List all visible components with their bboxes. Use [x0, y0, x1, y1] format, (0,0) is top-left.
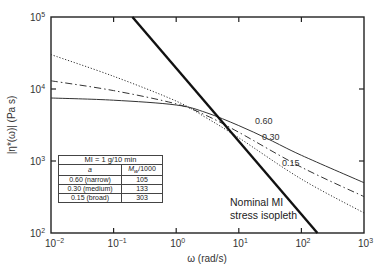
chart: 10−210−1100101102103102103104105 0.60 0.… — [0, 0, 386, 276]
curve-label-0.60: 0.60 — [255, 116, 273, 126]
legend-row: 0.30 (medium) 133 — [59, 185, 163, 194]
legend-cell: 105 — [122, 176, 163, 185]
y-axis-label: |η*(ω)| (Pa s) — [6, 96, 17, 155]
legend-row: 0.15 (broad) 303 — [59, 194, 163, 203]
isopleth-annotation-line1: Nominal MI — [230, 196, 283, 208]
legend-row: 0.60 (narrow) 105 — [59, 176, 163, 185]
x-axis-label: ω (rad/s) — [187, 253, 226, 264]
x-tick-label: 10−2 — [45, 237, 64, 249]
legend-cell: 0.15 (broad) — [59, 194, 122, 203]
isopleth-annotation-line2: stress isopleth — [230, 209, 297, 221]
legend-cell: 303 — [122, 194, 163, 203]
legend-title: MI = 1 g/10 min — [59, 156, 163, 165]
curve-label-0.30: 0.30 — [262, 132, 280, 142]
legend-cell: 0.60 (narrow) — [59, 176, 122, 185]
legend-header-mw: Mw/1000 — [122, 165, 163, 176]
y-tick-label: 102 — [30, 227, 45, 239]
y-tick-label: 103 — [30, 155, 45, 167]
x-tick-label: 10−1 — [108, 237, 127, 249]
x-tick-label: 101 — [233, 237, 248, 249]
y-tick-label: 105 — [30, 11, 45, 23]
legend-cell: 133 — [122, 185, 163, 194]
axis-tick-labels: 10−210−1100101102103102103104105 — [30, 11, 373, 249]
curve-label-0.15: 0.15 — [282, 158, 300, 168]
x-tick-label: 102 — [295, 237, 310, 249]
x-tick-label: 100 — [170, 237, 185, 249]
y-tick-label: 104 — [30, 83, 45, 95]
x-tick-label: 103 — [358, 237, 373, 249]
legend-cell: 0.30 (medium) — [59, 185, 122, 194]
legend-header-a: a — [59, 165, 122, 176]
legend-table: MI = 1 g/10 min a Mw/1000 0.60 (narrow) … — [58, 155, 163, 203]
